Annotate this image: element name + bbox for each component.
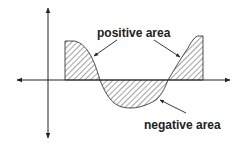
negative-pointer xyxy=(160,100,186,113)
positive-pointer-left xyxy=(94,40,117,56)
area-diagram: positive area negative area xyxy=(0,0,245,146)
positive-area-right xyxy=(168,36,203,80)
negative-area-label: negative area xyxy=(144,118,221,132)
positive-area-label: positive area xyxy=(97,26,171,40)
negative-area xyxy=(100,80,168,108)
positive-pointer-right xyxy=(154,40,180,57)
positive-area-left xyxy=(65,41,100,80)
